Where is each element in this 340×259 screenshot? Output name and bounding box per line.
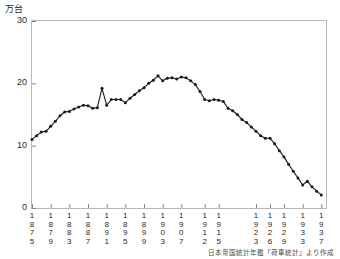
x-axis-tick-label: 1 9 3 3 [298,212,308,246]
data-point [283,155,286,158]
data-point [311,185,314,188]
data-point [59,114,62,117]
data-point [301,183,304,186]
y-axis-tick-label: 30 [5,16,27,25]
data-point [203,98,206,101]
data-point [101,87,104,90]
data-point [315,190,318,193]
y-axis-tick-label: 0 [5,203,27,212]
x-axis-tick-label: 1 9 2 9 [279,212,289,246]
data-point [161,79,164,82]
plot-frame [32,21,327,209]
data-point [119,98,122,101]
data-point [35,134,38,137]
data-point [297,177,300,180]
data-point [87,104,90,107]
data-point [77,106,80,109]
data-point [54,120,57,123]
x-axis-tick-label: 1 9 3 7 [316,212,326,246]
x-axis-tick-label: 1 9 0 7 [176,212,186,246]
data-point [175,77,178,80]
y-axis-tick-label: 20 [5,78,27,87]
data-point [273,142,276,145]
data-point [49,125,52,128]
data-point [292,170,295,173]
data-point [264,137,267,140]
source-note: 日本帝国統計年鑑「荷車統計」より作成 [208,249,334,257]
data-point [91,107,94,110]
data-point [255,130,258,133]
data-point [82,104,85,107]
data-point [110,98,113,101]
data-point [138,89,141,92]
data-point [199,90,202,93]
data-point [31,138,34,141]
data-point [245,121,248,124]
data-point [152,79,155,82]
data-point [236,113,239,116]
x-axis-tick-label: 1 8 9 9 [139,212,149,246]
data-point [166,77,169,80]
data-point [133,93,136,96]
data-point [231,109,234,112]
data-point [306,180,309,183]
data-point [68,110,71,113]
chart-figure: 万台 0102030 1 8 7 51 8 7 91 8 8 31 8 8 71… [0,0,340,259]
data-point [105,104,108,107]
data-point [287,163,290,166]
data-point [222,100,225,103]
x-axis-tick-label: 1 8 8 7 [83,212,93,246]
data-point [115,98,118,101]
data-point [241,118,244,121]
x-axis-tick-label: 1 9 1 5 [214,212,224,246]
data-point [194,83,197,86]
data-point [171,76,174,79]
data-point [250,125,253,128]
y-axis-unit-label: 万台 [5,4,23,14]
x-axis-tick-label: 1 8 9 5 [120,212,130,246]
data-point [147,82,150,85]
x-axis-tick-label: 1 9 1 2 [200,212,210,246]
x-axis-tick-label: 1 8 8 3 [64,212,74,246]
x-axis-tick-label: 1 8 9 1 [102,212,112,246]
data-point [269,137,272,140]
x-axis-tick-label: 1 9 0 3 [158,212,168,246]
data-point [208,99,211,102]
y-axis-tick-label: 10 [5,141,27,150]
x-axis-tick-label: 1 9 2 6 [265,212,275,246]
data-point [45,130,48,133]
data-point [73,107,76,110]
data-point [217,99,220,102]
data-point [143,86,146,89]
data-point [278,149,281,152]
data-point [129,97,132,100]
data-point [185,76,188,79]
data-point [96,106,99,109]
x-axis-tick-label: 1 8 7 5 [27,212,37,246]
data-point [124,101,127,104]
x-axis-tick-label: 1 8 7 9 [46,212,56,246]
x-axis-tick-label: 1 9 2 3 [251,212,261,246]
data-point [40,130,43,133]
data-point [213,98,216,101]
data-point [189,79,192,82]
data-point [157,74,160,77]
data-point [180,76,183,79]
data-point [63,111,66,114]
data-point [227,107,230,110]
data-point [320,193,323,196]
data-point [259,134,262,137]
